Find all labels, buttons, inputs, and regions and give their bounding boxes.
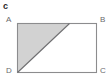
rectangle-diagram-svg: [0, 0, 111, 84]
vertex-label-c: C: [100, 66, 106, 75]
vertex-label-a: A: [6, 15, 11, 24]
vertex-label-d: D: [6, 66, 12, 75]
vertex-label-b: B: [100, 15, 105, 24]
geometry-figure: c A B C D: [0, 0, 111, 84]
